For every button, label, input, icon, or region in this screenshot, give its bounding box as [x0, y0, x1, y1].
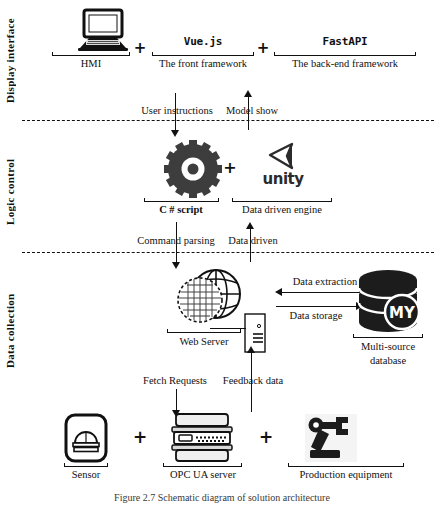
divider-logic-data [22, 252, 434, 253]
label-fastapi: FastAPI [323, 35, 368, 48]
brace-vuejs [152, 52, 254, 56]
svg-text:MY: MY [389, 304, 416, 322]
flow-label-user-instructions: User instructions [141, 105, 212, 116]
label-web-server: Web Server [179, 336, 228, 347]
brace-csharp-script [144, 198, 219, 202]
gear-icon [162, 140, 224, 198]
flow-label-data-driven: Data driven [228, 235, 277, 246]
band-label-data-collection: Data collection [4, 268, 16, 368]
arrow-up-data-driven [246, 222, 254, 229]
brace-hmi [52, 52, 130, 56]
flow-label-data-extraction: Data extraction [293, 276, 357, 287]
flow-label-data-storage: Data storage [290, 310, 343, 321]
label-backend-framework: The back-end framework [292, 58, 398, 69]
flow-line-data-storage [276, 306, 356, 307]
arrow-up-feedback-data [247, 346, 255, 353]
plus-sign-display-2: + [257, 41, 270, 56]
arrow-down-user-instructions [171, 130, 179, 137]
brace-opcua-server [163, 463, 242, 467]
database-icon: MY [352, 268, 424, 334]
flow-line-data-extraction [282, 292, 362, 293]
arrow-left-data-extraction [275, 288, 282, 296]
flow-label-fetch-requests: Fetch Requests [143, 375, 207, 386]
flow-line-feedback-data [251, 352, 252, 412]
flow-label-command-parsing: Command parsing [137, 235, 214, 246]
arrow-up-model-show [244, 90, 252, 97]
plus-sign-device-2: + [259, 429, 273, 446]
brace-fastapi [274, 52, 416, 56]
label-vuejs: Vue.js [184, 35, 223, 48]
label-opcua-server: OPC UA server [170, 469, 236, 480]
plus-sign-display-1: + [134, 41, 147, 56]
figure-caption: Figure 2.7 Schematic diagram of solution… [0, 492, 444, 503]
label-front-framework: The front framework [159, 58, 247, 69]
plus-sign-logic-1: + [223, 160, 236, 176]
label-sensor: Sensor [72, 469, 101, 480]
monitor-icon [72, 8, 134, 52]
brace-web-server [167, 329, 241, 333]
connector-globe-to-tower [210, 328, 246, 329]
brace-data-driven-engine [232, 198, 332, 202]
label-production-equipment: Production equipment [299, 469, 392, 480]
label-data-driven-engine: Data driven engine [242, 204, 322, 215]
flow-label-feedback-data: Feedback data [223, 375, 283, 386]
globe-icon [172, 266, 244, 328]
divider-display-logic [22, 120, 434, 121]
band-label-logic-control: Logic control [4, 135, 16, 225]
robot-arm-icon [303, 412, 359, 464]
architecture-diagram: Display interface Logic control Data col… [0, 0, 444, 507]
opcua-server-icon [168, 412, 236, 464]
flow-line-fetch-requests [176, 389, 177, 412]
brace-sensor [64, 463, 108, 467]
label-database-line1: Multi-source [361, 341, 415, 352]
sensor-icon [62, 412, 110, 464]
brace-production-equipment [288, 463, 404, 467]
brace-database [353, 334, 423, 338]
plus-sign-device-1: + [133, 429, 147, 446]
flow-label-model-show: Model show [226, 105, 278, 116]
label-database-line2: database [370, 355, 406, 366]
label-csharp-script: C # script [159, 204, 203, 215]
label-hmi: HMI [81, 58, 101, 69]
unity-icon [258, 142, 306, 172]
label-unity-wordmark: unity [263, 170, 304, 188]
band-label-display-interface: Display interface [4, 8, 16, 103]
